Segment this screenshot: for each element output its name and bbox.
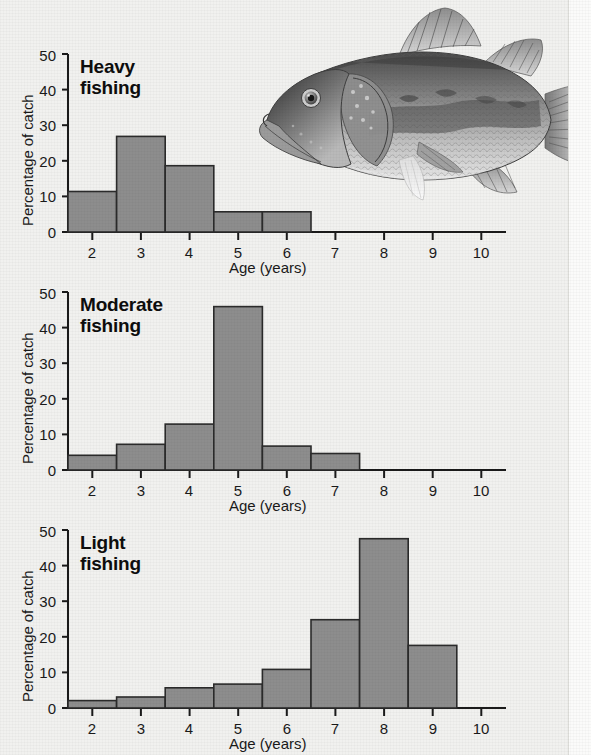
y-tick-10-light: 10 bbox=[28, 664, 56, 681]
x-tick-9-light: 9 bbox=[420, 720, 446, 737]
x-tick-10-light: 10 bbox=[468, 720, 494, 737]
bar-age-9 bbox=[408, 645, 457, 708]
y-tick-50-heavy: 50 bbox=[28, 47, 56, 64]
bar-age-2 bbox=[68, 701, 117, 708]
y-tick-20-heavy: 20 bbox=[28, 153, 56, 170]
x-tick-7-light: 7 bbox=[322, 720, 348, 737]
y-tick-40-heavy: 40 bbox=[28, 82, 56, 99]
y-tick-10-moderate: 10 bbox=[28, 426, 56, 443]
bar-age-5 bbox=[214, 212, 263, 232]
panel-title-light: Light fishing bbox=[80, 532, 141, 575]
y-tick-10-heavy: 10 bbox=[28, 188, 56, 205]
x-tick-2-light: 2 bbox=[79, 720, 105, 737]
bar-age-2 bbox=[68, 455, 117, 470]
bar-age-8 bbox=[360, 539, 409, 708]
bar-age-5 bbox=[214, 307, 263, 470]
largemouth-bass-illustration bbox=[249, 2, 579, 202]
bar-age-3 bbox=[117, 697, 166, 708]
y-tick-0-light: 0 bbox=[28, 700, 56, 717]
bar-age-6 bbox=[262, 446, 311, 470]
fish-eye bbox=[302, 89, 321, 108]
y-tick-20-light: 20 bbox=[28, 629, 56, 646]
y-tick-30-moderate: 30 bbox=[28, 355, 56, 372]
y-tick-50-moderate: 50 bbox=[28, 285, 56, 302]
bar-age-4 bbox=[165, 424, 214, 470]
x-tick-8-light: 8 bbox=[371, 720, 397, 737]
y-tick-50-light: 50 bbox=[28, 523, 56, 540]
y-tick-30-heavy: 30 bbox=[28, 117, 56, 134]
panel-light-fishing: Percentage of catch 50 40 30 20 10 0 bbox=[0, 476, 568, 736]
x-tick-4-light: 4 bbox=[176, 720, 202, 737]
y-tick-30-light: 30 bbox=[28, 593, 56, 610]
bar-age-5 bbox=[214, 684, 263, 708]
panel-title-moderate: Moderate fishing bbox=[80, 294, 163, 337]
x-tick-3-light: 3 bbox=[128, 720, 154, 737]
bar-age-7 bbox=[311, 454, 360, 471]
y-tick-20-moderate: 20 bbox=[28, 391, 56, 408]
panel-moderate-fishing: Percentage of catch 50 40 30 20 10 0 bbox=[0, 238, 568, 498]
bar-age-3 bbox=[117, 136, 166, 232]
fish-spiny-dorsal-fin bbox=[399, 8, 481, 56]
bar-age-3 bbox=[117, 444, 166, 470]
bar-age-2 bbox=[68, 192, 117, 233]
panel-title-heavy: Heavy fishing bbox=[80, 56, 141, 99]
bar-age-6 bbox=[262, 669, 311, 708]
bar-age-4 bbox=[165, 688, 214, 708]
figure-page: Percentage of catch 50 40 30 20 10 0 bbox=[0, 0, 591, 755]
bar-age-6 bbox=[262, 212, 311, 232]
x-axis-label-light: Age (years) bbox=[229, 735, 307, 752]
bar-age-7 bbox=[311, 620, 360, 708]
page-edge bbox=[568, 0, 591, 755]
bar-age-4 bbox=[165, 166, 214, 232]
fish-head bbox=[260, 70, 351, 168]
y-tick-40-moderate: 40 bbox=[28, 320, 56, 337]
y-tick-40-light: 40 bbox=[28, 558, 56, 575]
